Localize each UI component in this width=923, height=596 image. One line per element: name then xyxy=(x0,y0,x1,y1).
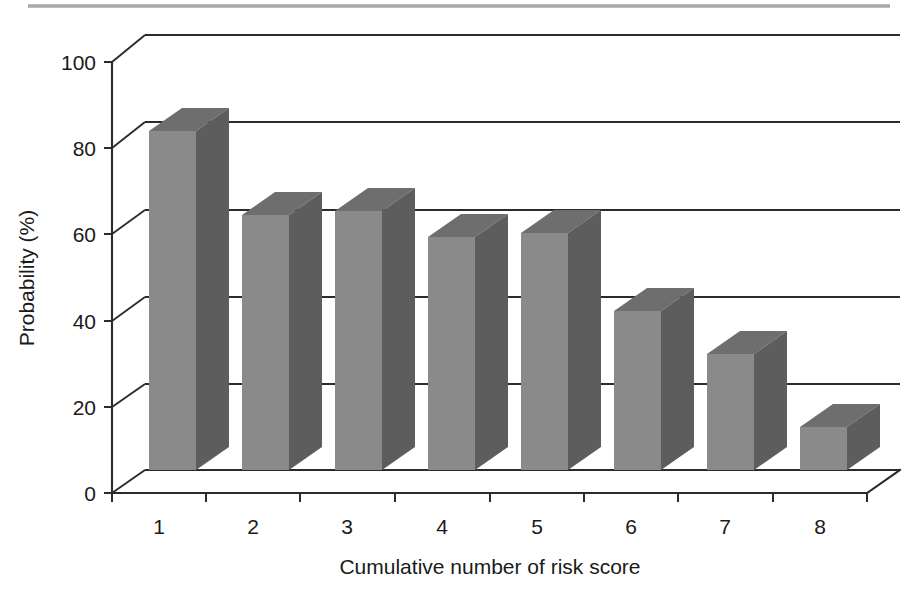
bar-2[interactable] xyxy=(242,192,322,470)
bar-4[interactable] xyxy=(428,214,508,470)
bar-1-front xyxy=(149,131,196,470)
bar-1-side xyxy=(196,108,229,470)
bar-group xyxy=(149,108,880,470)
bar-2-front xyxy=(242,215,289,470)
bar-5-side xyxy=(568,210,601,470)
bar-8[interactable] xyxy=(800,404,880,470)
x-axis-title: Cumulative number of risk score xyxy=(339,555,640,578)
y-ticks xyxy=(104,62,112,493)
x-tick-label-4: 4 xyxy=(436,515,448,538)
bar-1[interactable] xyxy=(149,108,229,470)
figure-container: 100 80 60 40 20 0 1 2 3 4 5 6 7 8 Cumula… xyxy=(0,0,923,596)
depth-line-80 xyxy=(112,122,145,148)
depth-connectors xyxy=(112,35,145,493)
bar-6[interactable] xyxy=(614,288,694,470)
depth-line-20 xyxy=(112,384,145,407)
x-tick-label-7: 7 xyxy=(719,515,731,538)
y-tick-labels: 100 80 60 40 20 0 xyxy=(61,51,96,505)
bar-8-front xyxy=(800,427,847,470)
bar-4-side xyxy=(475,214,508,470)
x-tick-label-5: 5 xyxy=(531,515,543,538)
bar-3-front xyxy=(335,211,382,470)
y-tick-label-100: 100 xyxy=(61,51,96,74)
depth-line-100 xyxy=(112,35,145,62)
bar-chart: 100 80 60 40 20 0 1 2 3 4 5 6 7 8 Cumula… xyxy=(0,0,923,596)
y-tick-label-40: 40 xyxy=(73,310,96,333)
depth-line-0 xyxy=(112,470,145,493)
bar-7-front xyxy=(707,354,754,470)
bar-7-side xyxy=(754,331,787,470)
bar-6-front xyxy=(614,311,661,470)
bar-5-front xyxy=(521,233,568,470)
bar-5[interactable] xyxy=(521,210,601,470)
depth-line-60 xyxy=(112,210,145,234)
bar-2-side xyxy=(289,192,322,470)
bar-7[interactable] xyxy=(707,331,787,470)
x-tick-label-6: 6 xyxy=(625,515,637,538)
bar-3[interactable] xyxy=(335,188,415,470)
floor-depth-edge xyxy=(867,470,900,493)
y-axis-title: Probability (%) xyxy=(15,210,38,347)
depth-line-40 xyxy=(112,297,145,321)
x-tick-labels: 1 2 3 4 5 6 7 8 xyxy=(153,515,826,538)
bar-6-side xyxy=(661,288,694,470)
x-ticks xyxy=(112,493,867,502)
y-tick-label-80: 80 xyxy=(73,137,96,160)
bar-4-front xyxy=(428,237,475,470)
y-tick-label-20: 20 xyxy=(73,396,96,419)
x-tick-label-8: 8 xyxy=(814,515,826,538)
y-tick-label-60: 60 xyxy=(73,223,96,246)
x-tick-label-2: 2 xyxy=(247,515,259,538)
y-tick-label-0: 0 xyxy=(84,482,96,505)
bar-3-side xyxy=(382,188,415,470)
x-tick-label-3: 3 xyxy=(341,515,353,538)
x-tick-label-1: 1 xyxy=(153,515,165,538)
